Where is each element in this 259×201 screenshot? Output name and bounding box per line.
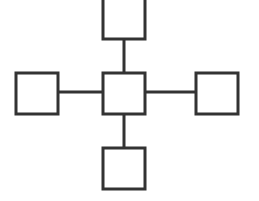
- node-left: [16, 73, 58, 114]
- node-center: [103, 73, 145, 114]
- node-bottom: [103, 148, 145, 189]
- node-right: [196, 73, 238, 114]
- node-top: [103, 0, 145, 39]
- star-topology-diagram: [0, 0, 259, 201]
- node-boxes: [16, 0, 238, 189]
